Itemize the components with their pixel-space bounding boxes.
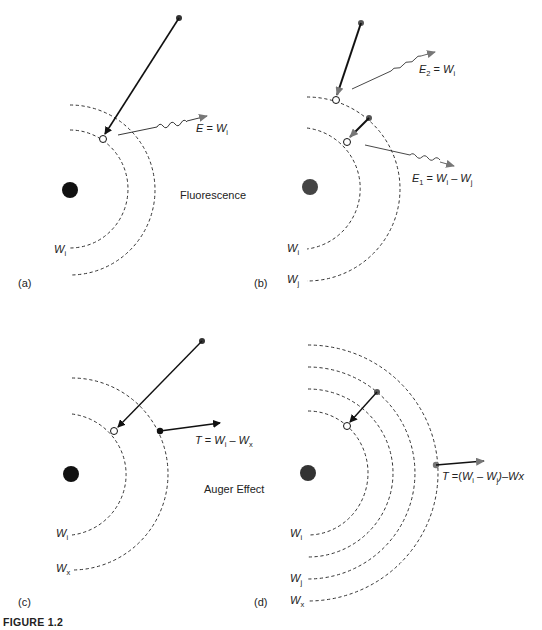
panel-label: (a) [18, 277, 31, 289]
process-label: Fluorescence [180, 189, 246, 201]
shell-label-x: Wx [290, 594, 304, 609]
vacancy-outer-icon [333, 97, 340, 104]
incident-electron-arrow [337, 23, 361, 95]
incident-electron-arrow [118, 341, 202, 427]
panel-label: (b) [254, 277, 267, 289]
shell-i [308, 411, 368, 535]
vacancy-icon [100, 136, 107, 143]
shell-inner [70, 130, 128, 248]
shell-inner [72, 414, 126, 535]
panel-b: E2 = Wi E1 = Wi – Wj Wi Wj (b) [254, 20, 473, 289]
shell-label-i: Wi [56, 527, 68, 542]
shell-outer [72, 378, 168, 570]
shell-j [308, 367, 415, 579]
transition-electron-arrow [350, 118, 369, 137]
photon-2-energy-label: E2 = Wi [419, 63, 455, 78]
process-label: Auger Effect [204, 483, 264, 495]
nucleus-icon [63, 466, 79, 482]
auger-energy-label: T =(Wi – Wj)–Wx [442, 470, 524, 485]
transition-electron-arrow [350, 392, 377, 422]
shell-outer [307, 97, 400, 281]
nucleus-icon [62, 182, 78, 198]
vacancy-icon [344, 423, 351, 430]
photon-1-energy-label: E1 = Wi – Wj [412, 172, 473, 187]
shell-outer [70, 105, 155, 275]
shell-j-inner [308, 389, 393, 557]
panel-label: (d) [254, 596, 267, 608]
shell-label-i: Wi [287, 242, 299, 257]
shell-label-j: Wj [287, 273, 299, 288]
panel-label: (c) [18, 596, 31, 608]
figure-caption: FIGURE 1.2 [3, 616, 63, 628]
photon-energy-label: E = Wi [196, 122, 228, 137]
shell-x [308, 345, 438, 601]
panel-c: T = Wi – Wx Auger Effect Wi Wx (c) [18, 338, 264, 608]
auger-electron-arrow [160, 423, 220, 431]
shell-label-j: Wj [290, 572, 302, 587]
panel-a: E = Wi Fluorescence Wi (a) [18, 15, 246, 289]
photon-wave [118, 116, 207, 135]
incident-electron-arrow [105, 18, 179, 134]
shell-label: Wi [54, 243, 66, 258]
shell-label-x: Wx [56, 562, 70, 577]
shell-label-i: Wi [290, 527, 302, 542]
vacancy-inner-icon [344, 139, 351, 146]
nucleus-icon [302, 179, 318, 195]
auger-electron-arrow [436, 461, 484, 465]
photon-wave-1 [365, 145, 454, 166]
nucleus-icon [300, 465, 316, 481]
figure-canvas: E = Wi Fluorescence Wi (a) E2 = Wi [0, 0, 542, 630]
vacancy-icon [111, 428, 118, 435]
panel-d: T =(Wi – Wj)–Wx Wi Wj Wx (d) [254, 345, 524, 609]
auger-energy-label: T = Wi – Wx [195, 434, 253, 449]
